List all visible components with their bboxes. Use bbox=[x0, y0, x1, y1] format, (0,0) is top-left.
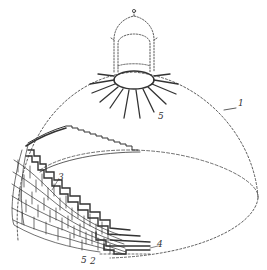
dome-drawing bbox=[0, 0, 267, 270]
label-5-brick: 5 bbox=[81, 256, 87, 265]
label-1: 1 bbox=[238, 99, 244, 108]
label-3: 3 bbox=[58, 173, 64, 182]
leader-1 bbox=[224, 108, 236, 110]
stepped-courses bbox=[26, 150, 150, 254]
brick-wall bbox=[12, 145, 126, 254]
oculus-ring bbox=[114, 71, 154, 89]
label-4: 4 bbox=[157, 240, 163, 249]
label-5-ribs: 5 bbox=[158, 112, 164, 121]
lantern bbox=[111, 12, 157, 72]
stepped-edge-top bbox=[28, 126, 138, 150]
base-ellipse-inner bbox=[40, 150, 258, 198]
label-2: 2 bbox=[90, 257, 96, 266]
radial-ribs bbox=[90, 74, 178, 118]
base-ellipse-back bbox=[110, 198, 258, 258]
